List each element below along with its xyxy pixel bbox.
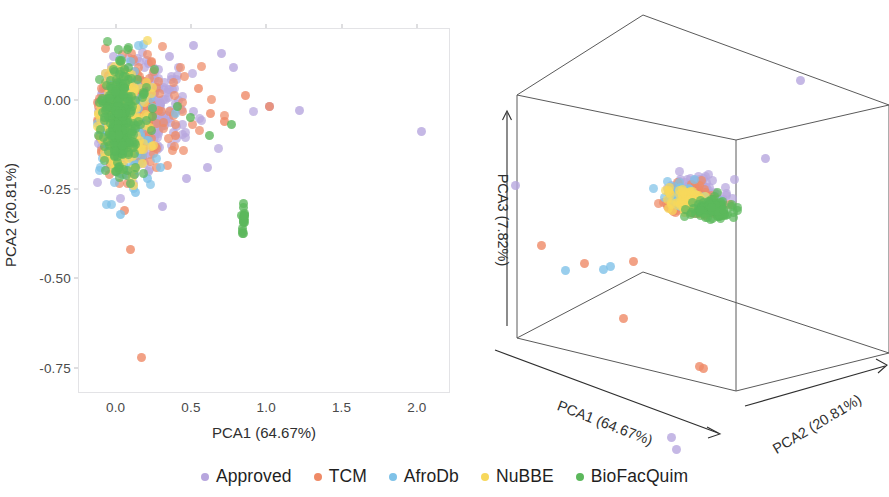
data-point-afrodb <box>156 163 165 172</box>
legend-label: AfroDb <box>404 466 459 487</box>
data-point-biofacquim <box>124 148 133 157</box>
legend-item-nubbe[interactable]: NuBBE <box>481 466 554 487</box>
data-point-nubbe <box>147 142 156 151</box>
data-point-afrodb <box>116 210 125 219</box>
data-point-biofacquim <box>119 90 128 99</box>
x-tick-mark <box>341 24 342 28</box>
data-point-tcm <box>194 84 203 93</box>
y-tick-label: -0.25 <box>39 182 71 197</box>
data-point-nubbe <box>143 36 152 45</box>
x-tick-label: 2.0 <box>407 400 426 415</box>
data-point-tcm <box>170 142 179 151</box>
x-tick-label: 0.0 <box>106 400 125 415</box>
data-point-3d-biofacquim <box>727 200 736 209</box>
data-point-tcm <box>143 50 152 59</box>
data-point-biofacquim <box>119 72 128 81</box>
data-point-tcm <box>171 120 180 129</box>
data-point-biofacquim <box>111 87 120 96</box>
legend-swatch-icon <box>481 473 489 481</box>
data-point-tcm <box>206 109 215 118</box>
x-axis-label-2d: PCA1 (64.67%) <box>212 424 316 441</box>
data-point-3d-approved <box>511 181 520 190</box>
data-point-3d-approved <box>730 175 739 184</box>
data-point-approved <box>417 127 426 136</box>
data-point-3d-tcm <box>537 241 546 250</box>
data-point-biofacquim <box>139 90 148 99</box>
data-point-approved <box>93 178 102 187</box>
data-point-biofacquim <box>130 170 139 179</box>
legend-label: Approved <box>216 466 292 487</box>
data-point-tcm <box>176 63 185 72</box>
data-point-3d-afrodb <box>606 262 615 271</box>
x-tick-label: 1.5 <box>332 400 351 415</box>
data-point-approved <box>203 163 212 172</box>
data-point-biofacquim <box>123 45 132 54</box>
data-point-approved <box>165 52 174 61</box>
y-tick-mark <box>74 367 78 368</box>
pca-3d-panel: PCA3 (7.82%) PCA1 (64.67%) PCA2 (20.81%) <box>455 8 889 448</box>
data-point-tcm <box>265 102 274 111</box>
legend-item-approved[interactable]: Approved <box>201 466 292 487</box>
legend-label: BioFacQuim <box>591 466 688 487</box>
z-axis-label-3d: PCA3 (7.82%) <box>495 174 511 267</box>
data-point-biofacquim <box>94 131 103 140</box>
data-point-3d-tcm <box>629 257 638 266</box>
data-point-approved <box>189 41 198 50</box>
data-point-biofacquim <box>100 156 109 165</box>
data-point-biofacquim <box>95 75 104 84</box>
x-tick-mark <box>115 24 116 28</box>
data-point-biofacquim <box>227 120 236 129</box>
data-point-afrodb <box>134 41 143 50</box>
legend-swatch-icon <box>201 473 209 481</box>
data-point-approved <box>295 106 304 115</box>
data-point-3d-afrodb <box>561 266 570 275</box>
legend-swatch-icon <box>314 473 322 481</box>
data-point-tcm <box>158 42 167 51</box>
data-point-approved <box>249 107 258 116</box>
y-tick-label: -0.50 <box>39 271 71 286</box>
y-axis-label-2d: PCA2 (20.81%) <box>2 163 19 267</box>
x-tick-mark <box>416 24 417 28</box>
data-point-biofacquim <box>126 179 135 188</box>
data-point-approved <box>214 144 223 153</box>
scatter-area-3d <box>455 8 889 448</box>
x-tick-mark <box>190 24 191 28</box>
y-tick-mark <box>74 278 78 279</box>
data-point-biofacquim <box>114 45 123 54</box>
data-point-approved <box>217 49 226 58</box>
data-point-biofacquim <box>116 57 125 66</box>
scatter-area-2d <box>78 28 450 393</box>
legend-label: TCM <box>329 466 367 487</box>
data-point-tcm <box>197 62 206 71</box>
data-point-biofacquim <box>97 96 106 105</box>
data-point-approved <box>229 63 238 72</box>
data-point-biofacquim <box>148 112 157 121</box>
data-point-3d-tcm <box>580 259 589 268</box>
data-point-biofacquim <box>101 166 110 175</box>
data-point-approved <box>158 202 167 211</box>
x-tick-mark <box>266 24 267 28</box>
data-point-3d-afrodb <box>649 184 658 193</box>
data-point-biofacquim <box>205 131 214 140</box>
data-point-tcm <box>155 89 164 98</box>
data-point-tcm <box>241 91 250 100</box>
x-tick-label: 1.0 <box>257 400 276 415</box>
y-tick-label: -0.75 <box>39 360 71 375</box>
data-point-tcm <box>179 146 188 155</box>
data-point-afrodb <box>102 200 111 209</box>
legend-item-afrodb[interactable]: AfroDb <box>389 466 459 487</box>
data-point-tcm <box>180 72 189 81</box>
legend-label: NuBBE <box>496 466 554 487</box>
y-tick-mark <box>74 99 78 100</box>
legend-swatch-icon <box>389 473 397 481</box>
legend: ApprovedTCMAfroDbNuBBEBioFacQuim <box>0 466 889 487</box>
data-point-3d-tcm <box>699 364 708 373</box>
y-tick-label: 0.00 <box>44 92 71 107</box>
data-point-approved <box>182 174 191 183</box>
legend-item-tcm[interactable]: TCM <box>314 466 367 487</box>
data-point-3d-approved <box>761 154 770 163</box>
legend-item-biofacquim[interactable]: BioFacQuim <box>576 466 688 487</box>
data-point-3d-approved <box>672 445 681 454</box>
data-point-3d-approved <box>796 76 805 85</box>
data-point-3d-approved <box>667 433 676 442</box>
